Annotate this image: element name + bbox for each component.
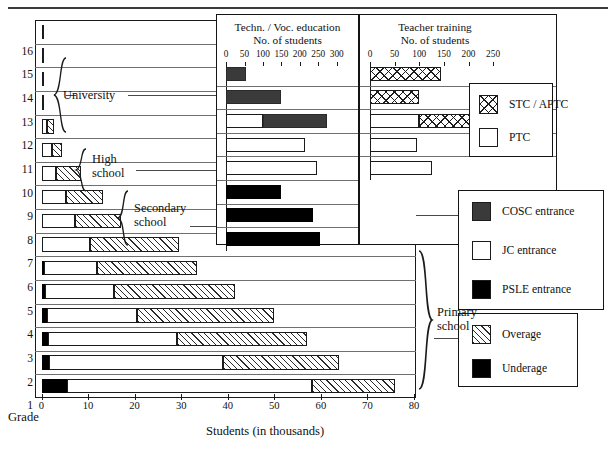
panel-bar-seg-jc-entrance-grade-13	[226, 114, 263, 128]
grade-label-15: 15	[11, 69, 33, 81]
bar-seg-normal-age-grade-1	[67, 379, 312, 394]
swatch-stc-aptc	[479, 95, 498, 114]
grade-label-13: 13	[11, 117, 33, 129]
x-tick-label-70: 70	[353, 400, 381, 411]
panel-bar-seg-psle-entrance-grade-9	[226, 208, 313, 222]
panel-bar-seg-ptc-grade-13	[370, 114, 419, 128]
legend-label-psle-entrance: PSLE entrance	[502, 283, 571, 296]
legend-item-stc-aptc: STC / APTC	[479, 95, 568, 114]
swatch-psle-entrance	[472, 280, 491, 299]
bar-seg-overage-grade-9	[66, 190, 103, 205]
bar-seg-normal-age-grade-5	[45, 284, 113, 299]
x-tick-label-40: 40	[214, 400, 242, 411]
panel-bar-seg-cosc-entrance-grade-13	[263, 114, 328, 128]
group-label-primary-school-line2: school	[437, 319, 507, 333]
group-label-high-school-line1: High	[92, 152, 162, 166]
legend-label-ptc: PTC	[509, 131, 530, 144]
bar-seg-normal-age-grade-2	[49, 355, 223, 370]
legend-label-stc-aptc: STC / APTC	[509, 98, 568, 111]
group-label-primary-school: Primary school	[437, 305, 507, 333]
swatch-cosc-entrance	[472, 202, 491, 221]
x-tick-label-20: 20	[121, 400, 149, 411]
grade-axis-labels: 12345678910111213141516	[8, 20, 33, 398]
legend-item-cosc-entrance: COSC entrance	[472, 202, 574, 221]
grade-label-16: 16	[11, 46, 33, 58]
leader-high-school	[136, 170, 216, 171]
bar-seg-overage-grade-8	[75, 214, 121, 229]
bar-seg-overage-grade-1	[312, 379, 396, 394]
bar-seg-overage-grade-11	[52, 143, 63, 158]
bar-seg-underage-grade-2	[42, 355, 50, 370]
brace-primary-school	[416, 250, 434, 390]
panel-bar-seg-cosc-entrance-grade-15	[226, 67, 246, 81]
grade-label-7: 7	[11, 258, 33, 270]
panel-bar-seg-psle-entrance-grade-8	[226, 232, 320, 246]
grade-label-14: 14	[11, 93, 33, 105]
legend-item-ptc: PTC	[479, 128, 530, 147]
panel-bar-seg-stc-aptc-grade-15	[370, 67, 441, 81]
bar-seg-normal-age-grade-11	[42, 143, 52, 158]
legend-label-overage: Overage	[502, 328, 541, 341]
panel-bar-seg-ptc-grade-12	[370, 138, 417, 152]
panel-bar-seg-stc-aptc-grade-14	[370, 90, 419, 104]
x-tick-label-10: 10	[74, 400, 102, 411]
y-axis-caption: Grade	[8, 410, 39, 425]
x-tick-label-50: 50	[260, 400, 288, 411]
bar-seg-overage-grade-7	[90, 237, 179, 252]
grade-label-4: 4	[11, 329, 33, 341]
group-label-university-line1: University	[63, 88, 115, 102]
group-label-secondary-school-line1: Secondary	[134, 201, 224, 215]
panel-bar-seg-jc-entrance-grade-11	[226, 161, 317, 175]
leader-entrance-legend	[416, 215, 458, 216]
legend-item-jc-entrance: JC entrance	[472, 241, 556, 260]
grade-label-6: 6	[11, 282, 33, 294]
x-tick-label-60: 60	[307, 400, 335, 411]
bar-seg-overage-grade-3	[177, 332, 307, 347]
legend-entrance: COSC entrance JC entrance PSLE entrance	[458, 190, 604, 310]
bar-seg-normal-age-grade-8	[42, 214, 76, 229]
brace-high-school	[74, 148, 88, 192]
leader-secondary-school	[190, 226, 216, 227]
bar-seg-normal-age-grade-13	[42, 95, 44, 110]
bar-seg-overage-grade-4	[137, 308, 274, 323]
bar-seg-overage-grade-6	[97, 261, 197, 276]
panel-technical-vocational: Techn. / Voc. education No. of students …	[216, 14, 359, 245]
grade-label-3: 3	[11, 353, 33, 365]
bar-seg-underage-grade-1	[42, 379, 68, 394]
bar-seg-normal-age-grade-3	[48, 332, 177, 347]
legend-item-psle-entrance: PSLE entrance	[472, 280, 571, 299]
panel-tech-bars	[217, 15, 358, 244]
grade-label-8: 8	[11, 235, 33, 247]
grade-label-2: 2	[11, 377, 33, 389]
bar-seg-normal-age-grade-15	[42, 48, 44, 63]
group-label-high-school: High school	[92, 152, 162, 180]
panel-bar-seg-cosc-entrance-grade-14	[226, 90, 281, 104]
legend-label-jc-entrance: JC entrance	[502, 244, 556, 257]
panel-bar-seg-stc-aptc-grade-13	[419, 114, 471, 128]
swatch-ptc	[479, 128, 498, 147]
x-tick-label-80: 80	[400, 400, 428, 411]
grade-label-10: 10	[11, 188, 33, 200]
panel-bar-seg-psle-entrance-grade-10	[226, 185, 281, 199]
grade-label-11: 11	[11, 164, 33, 176]
x-tick-label-30: 30	[167, 400, 195, 411]
panel-bar-seg-jc-entrance-grade-12	[226, 138, 305, 152]
group-label-primary-school-line1: Primary	[437, 305, 507, 319]
group-label-high-school-line2: school	[92, 166, 162, 180]
bar-seg-overage-grade-2	[223, 355, 339, 370]
bar-seg-overage-grade-5	[114, 284, 235, 299]
swatch-underage	[472, 359, 491, 378]
bar-seg-normal-age-grade-7	[42, 237, 91, 252]
grade-label-12: 12	[11, 140, 33, 152]
bar-seg-normal-age-grade-16	[42, 25, 44, 40]
grade-label-9: 9	[11, 211, 33, 223]
legend-item-underage: Underage	[472, 359, 547, 378]
x-axis-caption: Students (in thousands)	[150, 424, 380, 439]
bar-seg-normal-age-grade-14	[42, 72, 44, 87]
brace-secondary-school	[116, 190, 130, 246]
legend-teacher-training: STC / APTC PTC	[469, 83, 553, 157]
x-axis-tick-labels: 01020304050607080	[0, 398, 615, 414]
bar-seg-normal-age-grade-10	[42, 166, 57, 181]
legend-label-cosc-entrance: COSC entrance	[502, 205, 574, 218]
leader-primary-school	[434, 338, 458, 339]
